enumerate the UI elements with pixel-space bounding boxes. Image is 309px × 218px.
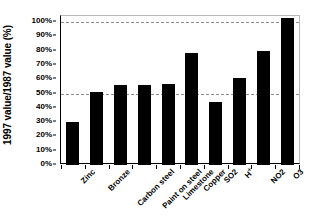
y-axis-tick-mark: [53, 149, 56, 150]
bar-slot: [85, 22, 109, 165]
y-axis-title: 1997 value/1987 value (%): [0, 0, 16, 170]
y-axis-title-text: 1997 value/1987 value (%): [3, 25, 13, 145]
y-axis-tick-mark: [53, 78, 56, 79]
bar-slot: [132, 22, 156, 165]
bar: [162, 84, 175, 166]
bar: [185, 53, 198, 165]
y-axis-tick-mark: [53, 92, 56, 93]
x-axis-category-label: H+: [244, 168, 256, 180]
y-axis-tick-label: 80%: [36, 46, 52, 54]
y-axis-tick-mark: [53, 35, 56, 36]
y-axis-tick-mark: [53, 106, 56, 107]
y-axis-tick-mark: [53, 135, 56, 136]
x-axis-category-label: Bronze: [106, 168, 131, 193]
bar-slot: [61, 22, 85, 165]
bar: [138, 85, 151, 165]
y-axis-tick-label: 70%: [36, 60, 52, 68]
y-axis-tick-labels: 0%10%20%30%40%50%60%70%80%90%100%: [17, 21, 56, 164]
y-axis-tick-mark: [53, 164, 56, 165]
y-axis-tick-label: 50%: [36, 89, 52, 97]
bar: [66, 122, 79, 165]
bar-slot: [156, 22, 180, 165]
y-axis-tick-label: 60%: [36, 74, 52, 82]
bar-slot: [204, 22, 228, 165]
bar-slot: [180, 22, 204, 165]
bar: [257, 51, 270, 165]
bar: [209, 102, 222, 165]
bar-series: [61, 22, 299, 165]
y-axis-tick-label: 10%: [36, 146, 52, 154]
y-axis-tick-mark: [53, 49, 56, 50]
bar-slot: [228, 22, 252, 165]
y-axis-tick-mark: [53, 121, 56, 122]
bar: [233, 78, 246, 165]
y-axis-tick-label: 90%: [36, 31, 52, 39]
y-axis-tick-label: 0%: [40, 160, 52, 168]
y-axis-tick-label: 100%: [32, 17, 52, 25]
x-axis-category-label: NO2: [270, 168, 287, 185]
bar: [90, 92, 103, 165]
x-axis-category-label: Zinc: [80, 168, 97, 185]
bar-chart-figure: 1997 value/1987 value (%) 0%10%20%30%40%…: [0, 0, 309, 218]
y-axis-tick-label: 40%: [36, 103, 52, 111]
plot-inner-region: [61, 22, 299, 165]
y-axis-tick-mark: [53, 21, 56, 22]
y-axis-tick-label: 20%: [36, 131, 52, 139]
bar-slot: [109, 22, 133, 165]
x-axis-category-label: O3: [292, 168, 305, 181]
bar: [114, 85, 127, 165]
plot-area: [60, 15, 300, 164]
bar-slot: [275, 22, 299, 165]
bar-slot: [251, 22, 275, 165]
bar: [281, 18, 294, 165]
x-axis-category-labels: ZincBronzeCarbon steelPaint on steelLime…: [60, 168, 300, 218]
y-axis-tick-label: 30%: [36, 117, 52, 125]
y-axis-tick-mark: [53, 63, 56, 64]
